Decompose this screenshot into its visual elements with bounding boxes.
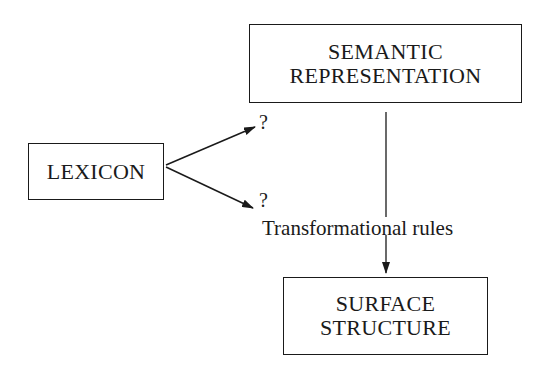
arrow-lexicon-to-upper-unknown: [166, 127, 255, 165]
unknown-lower-label: ?: [259, 190, 268, 210]
lexicon-label: LEXICON: [47, 160, 146, 184]
semantic-line2: REPRESENTATION: [290, 64, 482, 88]
lexicon-node: LEXICON: [28, 143, 164, 200]
surface-line2: STRUCTURE: [320, 316, 451, 340]
unknown-upper-label: ?: [259, 112, 268, 132]
transformational-rules-label: Transformational rules: [262, 218, 453, 238]
semantic-line1: SEMANTIC: [328, 40, 443, 64]
arrow-lexicon-to-lower-unknown: [166, 167, 253, 208]
surface-line1: SURFACE: [336, 292, 436, 316]
semantic-representation-node: SEMANTIC REPRESENTATION: [249, 24, 522, 103]
surface-structure-node: SURFACE STRUCTURE: [283, 277, 488, 355]
